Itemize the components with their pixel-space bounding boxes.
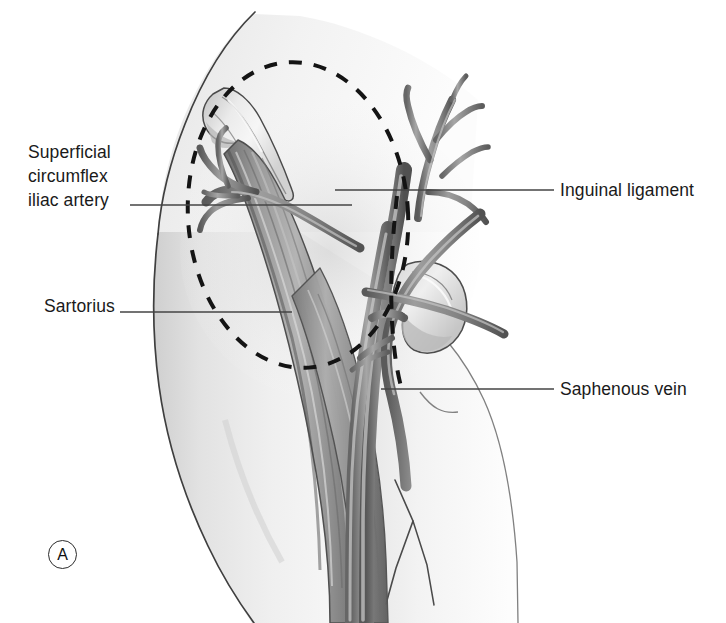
panel-marker-a: A	[48, 540, 77, 569]
saphenofemoral-junction-arch	[372, 314, 404, 319]
label-saphenous-vein: Saphenous vein	[560, 377, 687, 401]
label-scia-line-2: circumflex	[28, 164, 111, 188]
label-scia-line-1: Superficial	[28, 140, 111, 164]
figure-panel-a: Superficial circumflex iliac artery Sart…	[0, 0, 726, 623]
label-superficial-circumflex-iliac-artery: Superficial circumflex iliac artery	[28, 140, 111, 212]
label-scia-line-3: iliac artery	[28, 188, 111, 212]
label-inguinal-ligament: Inguinal ligament	[560, 178, 694, 202]
label-sartorius: Sartorius	[44, 294, 115, 318]
